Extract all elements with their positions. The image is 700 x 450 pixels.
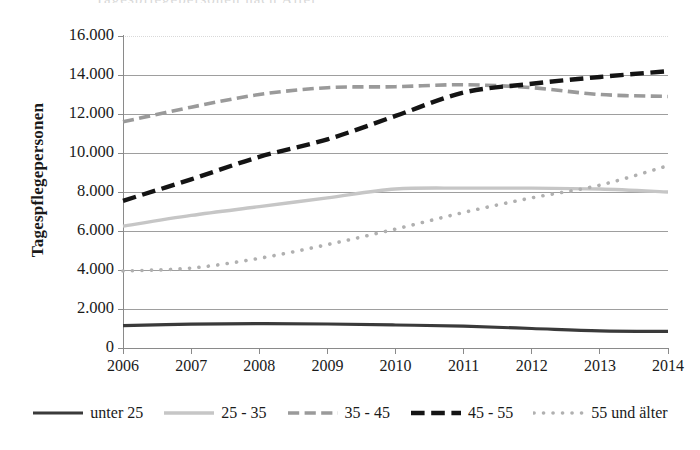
legend-item[interactable]: 35 - 45: [287, 404, 390, 422]
legend-label: 35 - 45: [345, 404, 390, 422]
legend-item[interactable]: 55 und älter: [533, 404, 667, 422]
y-tick-label: 10.000: [44, 144, 114, 160]
legend-swatch-icon: [410, 407, 462, 419]
legend-item[interactable]: 25 - 35: [163, 404, 266, 422]
legend-swatch-icon: [287, 407, 339, 419]
y-tick-label: 4.000: [44, 261, 114, 277]
x-tick-label: 2010: [361, 357, 431, 375]
y-tick-label: 14.000: [44, 66, 114, 82]
legend-item[interactable]: unter 25: [32, 404, 143, 422]
x-tick-label: 2009: [292, 357, 362, 375]
cropped-title-remnant: Tagespflegepersonen nach Alter: [95, 0, 615, 3]
x-tick-label: 2006: [88, 357, 158, 375]
chart-container: Tagespflegepersonen nach Alter Tagespfle…: [0, 0, 700, 450]
x-tick-label: 2008: [224, 357, 294, 375]
x-tick-label: 2014: [633, 357, 700, 375]
y-axis-tick-labels: 02.0004.0006.0008.00010.00012.00014.0001…: [42, 0, 114, 450]
legend-label: 55 und älter: [591, 404, 667, 422]
y-tick-label: 6.000: [44, 222, 114, 238]
legend-swatch-icon: [533, 407, 585, 419]
y-tick-label: 2.000: [44, 300, 114, 316]
chart-legend: unter 2525 - 3535 - 4545 - 5555 und älte…: [0, 404, 700, 422]
x-tick-label: 2013: [565, 357, 635, 375]
y-tick-label: 16.000: [44, 27, 114, 43]
legend-label: 25 - 35: [221, 404, 266, 422]
legend-label: unter 25: [90, 404, 143, 422]
series-line: [123, 324, 668, 332]
legend-swatch-icon: [32, 407, 84, 419]
series-line: [123, 188, 668, 226]
series-line: [123, 166, 668, 271]
legend-label: 45 - 55: [468, 404, 513, 422]
x-tick-label: 2007: [156, 357, 226, 375]
legend-item[interactable]: 45 - 55: [410, 404, 513, 422]
y-tick-label: 12.000: [44, 105, 114, 121]
y-tick-label: 0: [44, 339, 114, 355]
legend-swatch-icon: [163, 407, 215, 419]
x-tick-label: 2012: [497, 357, 567, 375]
series-line: [123, 71, 668, 201]
y-tick-label: 8.000: [44, 183, 114, 199]
x-tick-label: 2011: [429, 357, 499, 375]
